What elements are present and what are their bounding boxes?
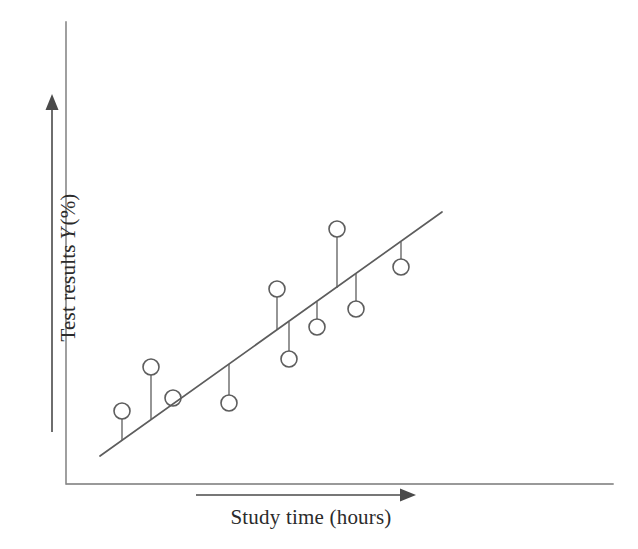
data-point-marker (329, 221, 345, 237)
data-point-marker (114, 403, 130, 419)
x-label-arrowhead (400, 489, 416, 502)
x-axis-label: Study time (hours) (196, 505, 426, 530)
data-point-marker (348, 301, 364, 317)
y-axis-label: Test resultsY(%) (56, 138, 81, 398)
data-points-group (114, 221, 409, 419)
scatter-plot-svg (0, 0, 638, 549)
data-point-marker (393, 259, 409, 275)
figure-canvas: Test resultsY(%) Study time (hours) (0, 0, 638, 549)
data-point-marker (269, 281, 285, 297)
y-axis-label-prefix: Test results (56, 244, 80, 341)
data-point-marker (165, 390, 181, 406)
regression-line (100, 212, 442, 456)
y-axis-label-variable: Y (56, 226, 80, 245)
axis-label-arrows-group (46, 94, 417, 502)
data-point-marker (143, 359, 159, 375)
y-label-arrowhead (46, 94, 59, 110)
regression-line-group (100, 212, 442, 456)
axes-group (66, 22, 613, 484)
y-axis-label-suffix: (%) (56, 193, 80, 225)
data-point-marker (281, 351, 297, 367)
data-point-marker (309, 319, 325, 335)
data-point-marker (221, 395, 237, 411)
